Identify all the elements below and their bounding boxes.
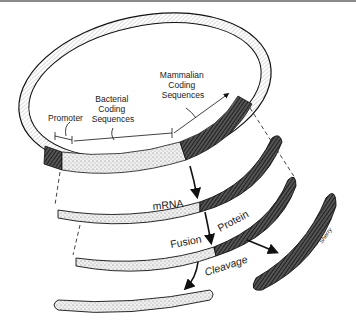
promoter-label: Promoter bbox=[48, 113, 83, 123]
mammalian-label-line-1: Mammalian bbox=[160, 70, 204, 80]
bacterial-label-line-2: Coding bbox=[98, 104, 125, 114]
fusion-label: Fusion bbox=[169, 233, 202, 250]
transcription-arrow bbox=[190, 166, 197, 196]
bacterial-label-line-3: Sequences bbox=[92, 114, 135, 124]
translation-arrow bbox=[205, 212, 211, 242]
mammalian-label-line-2: Coding bbox=[168, 80, 195, 90]
protein-label: Protein bbox=[215, 207, 250, 233]
mammalian-label-line-3: Sequences bbox=[162, 90, 205, 100]
bacterial-label-line-1: Bacterial bbox=[95, 94, 128, 104]
bacterial-protein-product bbox=[54, 290, 213, 312]
fusion-protein-strand bbox=[76, 177, 296, 271]
cleavage-arrow-left bbox=[186, 262, 198, 288]
cleavage-arrow-right bbox=[247, 240, 276, 252]
plasmid-ring bbox=[4, 0, 285, 189]
plasmid-expression-diagram: Promoter Bacterial Coding Sequences Mamm… bbox=[0, 0, 356, 323]
